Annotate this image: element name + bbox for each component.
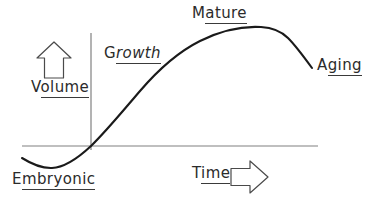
right-arrow-outline-icon [231, 161, 268, 193]
phase-label-embryonic: Embryonic [12, 172, 95, 187]
growth-curve-diagram: Volume Embryonic Growth Mature Aging Tim… [0, 0, 377, 204]
phase-label-aging: Aging [317, 58, 362, 73]
x-axis-label-time: Time [192, 166, 230, 181]
x-axis-label-time-rest: ime [201, 164, 230, 184]
y-axis-label-volume-rest: olume [41, 78, 90, 98]
phase-label-aging-lead: A [317, 56, 328, 74]
phase-label-embryonic-rest: mbryonic [22, 170, 95, 190]
up-arrow-outline-icon [37, 42, 71, 78]
x-axis-label-time-lead: T [192, 164, 201, 182]
phase-label-mature-lead: M [192, 4, 205, 22]
phase-label-growth-rest: rowth [116, 44, 161, 64]
phase-label-growth: Growth [104, 46, 161, 61]
phase-label-embryonic-lead: E [12, 170, 22, 188]
y-axis-label-volume-lead: V [31, 78, 41, 96]
phase-label-aging-rest: ging [328, 56, 362, 76]
phase-label-mature-rest: ature [205, 4, 247, 24]
phase-label-growth-lead: G [104, 44, 116, 62]
y-axis-label-volume: Volume [31, 80, 89, 95]
phase-label-mature: Mature [192, 6, 247, 21]
